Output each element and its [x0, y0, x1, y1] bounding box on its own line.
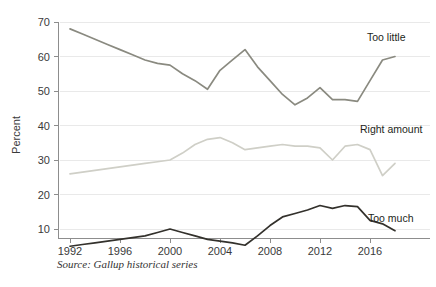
y-tick-label: 30: [38, 154, 50, 166]
x-tick-label: 2004: [208, 245, 232, 257]
y-tick-label: 70: [38, 16, 50, 28]
y-tick-label: 50: [38, 85, 50, 97]
x-tick-label: 2016: [358, 245, 382, 257]
x-tick-label: 1996: [108, 245, 132, 257]
series-label-too-much: Too much: [368, 212, 414, 224]
source-note: Source: Gallup historical series: [57, 258, 197, 270]
y-axis-title: Percent: [10, 116, 22, 154]
series-line-too-much: [70, 206, 395, 247]
y-tick-label: 60: [38, 51, 50, 63]
y-tick-label: 10: [38, 223, 50, 235]
x-tick-label: 2012: [308, 245, 332, 257]
line-chart: 10203040506070 1992199620002004200820122…: [0, 0, 436, 287]
chart-container: 10203040506070 1992199620002004200820122…: [0, 0, 436, 287]
series-line-too-little: [70, 29, 395, 105]
x-tick-label: 2008: [258, 245, 282, 257]
series-label-too-little: Too little: [367, 31, 406, 43]
series-line-right-amount: [70, 138, 395, 176]
series-labels-group: Too littleRight amountToo much: [360, 31, 423, 224]
y-axis-group: 10203040506070: [38, 16, 58, 238]
x-tick-label: 2000: [158, 245, 182, 257]
series-label-right-amount: Right amount: [360, 123, 423, 135]
y-tick-label: 40: [38, 120, 50, 132]
data-series-group: [70, 29, 395, 246]
y-tick-label: 20: [38, 189, 50, 201]
